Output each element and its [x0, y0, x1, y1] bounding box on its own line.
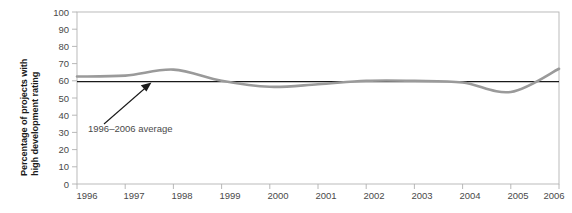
x-tick-2001: 2001 [315, 190, 336, 201]
y-axis-title-line1: Percentage of projects with [19, 58, 29, 176]
y-tick-70: 70 [58, 58, 69, 69]
x-tick-2005: 2005 [507, 190, 528, 201]
x-tick-1996: 1996 [76, 190, 97, 201]
y-tick-20: 20 [58, 144, 69, 155]
y-tick-30: 30 [58, 127, 69, 138]
x-tick-1999: 1999 [219, 190, 240, 201]
y-tick-10: 10 [58, 161, 69, 172]
y-tick-50: 50 [58, 93, 69, 104]
x-tick-2003: 2003 [411, 190, 432, 201]
y-axis-ticks [72, 12, 77, 184]
x-tick-2004: 2004 [459, 190, 480, 201]
x-axis-ticks [77, 184, 559, 189]
y-tick-40: 40 [58, 110, 69, 121]
y-tick-100: 100 [53, 7, 69, 18]
y-tick-90: 90 [58, 24, 69, 35]
x-axis-tick-labels: 1996 1997 1998 1999 2000 2001 2002 2003 … [76, 190, 564, 201]
y-axis-title: Percentage of projects with high develop… [19, 58, 40, 176]
x-tick-2002: 2002 [363, 190, 384, 201]
x-tick-1998: 1998 [171, 190, 192, 201]
x-tick-1997: 1997 [123, 190, 144, 201]
y-axis-title-line2: high development rating [30, 72, 40, 176]
x-tick-2000: 2000 [267, 190, 288, 201]
y-tick-80: 80 [58, 41, 69, 52]
y-axis-tick-labels: 100 90 80 70 60 50 40 30 20 10 0 [53, 7, 69, 190]
chart-container: Percentage of projects with high develop… [0, 0, 572, 213]
y-tick-0: 0 [64, 179, 69, 190]
x-tick-2006: 2006 [543, 190, 564, 201]
plot-frame [77, 12, 559, 184]
development-rating-line-chart: Percentage of projects with high develop… [0, 0, 572, 213]
average-annotation-label: 1996–2006 average [88, 123, 173, 134]
y-tick-60: 60 [58, 75, 69, 86]
